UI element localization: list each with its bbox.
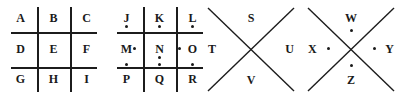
cipher-dot-icon xyxy=(191,63,194,66)
grid-cell: P xyxy=(110,63,143,95)
grid-cell: I xyxy=(70,63,103,95)
cipher-letter: L xyxy=(188,12,196,24)
cipher-letter: U xyxy=(285,43,294,55)
grid-cell: D xyxy=(4,33,37,65)
figure-x-plain: S T U V xyxy=(203,0,299,98)
cipher-letter: T xyxy=(208,43,216,55)
cipher-letter: P xyxy=(123,73,130,85)
cipher-dot-icon xyxy=(158,56,161,59)
cipher-letter: S xyxy=(203,12,299,24)
grid-cell: G xyxy=(4,63,37,95)
cipher-dot-icon xyxy=(125,63,128,66)
cipher-letter: F xyxy=(83,43,90,55)
cipher-dot-icon xyxy=(158,25,161,28)
cipher-letter: I xyxy=(84,73,89,85)
grid-cell: A xyxy=(4,2,37,34)
cipher-letter: J xyxy=(124,12,130,24)
grid-cell: Q xyxy=(143,63,176,95)
cipher-dot-icon xyxy=(327,47,330,50)
grid-cell: M xyxy=(110,33,143,65)
cipher-letter: E xyxy=(49,43,57,55)
figure-x-dotted: W X Y Z xyxy=(303,0,399,98)
cipher-letter: A xyxy=(16,12,25,24)
cipher-dot-icon xyxy=(350,64,353,67)
grid-cell: K xyxy=(143,2,176,34)
cipher-letter: Y xyxy=(385,43,394,55)
pigpen-cipher-key-diagram: A B C D E F G H I J K L M N O P Q R S T … xyxy=(0,0,401,98)
cipher-letter: Q xyxy=(155,73,164,85)
cipher-dot-icon xyxy=(350,29,353,32)
cipher-letter: C xyxy=(82,12,91,24)
grid-cell: N xyxy=(143,33,176,65)
grid-cell: B xyxy=(37,2,70,34)
cipher-letter: R xyxy=(188,73,197,85)
cipher-dot-icon xyxy=(158,63,161,66)
cipher-dot-icon xyxy=(133,47,136,50)
figure-grid-plain: A B C D E F G H I xyxy=(4,0,104,98)
cipher-letter: G xyxy=(16,73,25,85)
cipher-letter: N xyxy=(155,43,164,55)
cipher-dot-icon xyxy=(125,25,128,28)
grid-cell: J xyxy=(110,2,143,34)
figure-grid-dotted: J K L M N O P Q R xyxy=(110,0,210,98)
grid-cell: C xyxy=(70,2,103,34)
cipher-letter: W xyxy=(303,12,399,24)
cipher-letter: B xyxy=(49,12,57,24)
cipher-letter: H xyxy=(49,73,58,85)
grid-cell: F xyxy=(70,33,103,65)
cipher-letter: O xyxy=(188,43,197,55)
cipher-letter: M xyxy=(121,43,132,55)
cipher-letter: D xyxy=(16,43,25,55)
grid-cell: H xyxy=(37,63,70,95)
cipher-dot-icon xyxy=(178,47,181,50)
cipher-letter: X xyxy=(308,43,317,55)
cipher-letter: K xyxy=(155,12,164,24)
cipher-letter: Z xyxy=(303,74,399,86)
cipher-dot-icon xyxy=(373,47,376,50)
grid-cell: E xyxy=(37,33,70,65)
cipher-letter: V xyxy=(203,74,299,86)
cipher-dot-icon xyxy=(191,25,194,28)
